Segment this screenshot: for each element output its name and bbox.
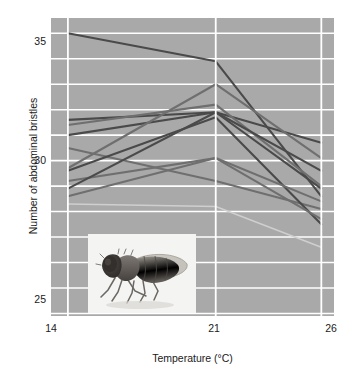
reaction-norm-line-3: [68, 105, 321, 187]
x-tick-21: 21: [194, 322, 234, 334]
x-tick-14: 14: [31, 322, 71, 334]
y-tick-35: 35: [12, 36, 46, 47]
y-tick-25: 25: [12, 294, 46, 305]
y-tick-30: 30: [12, 155, 46, 166]
reaction-norm-line-7: [68, 117, 321, 224]
fly-illustration: [88, 234, 196, 313]
series-lines: [68, 33, 321, 247]
x-axis-label: Temperature (°C): [51, 352, 334, 364]
reaction-norm-line-2: [68, 112, 321, 143]
reaction-norm-figure: Number of abdominal bristles 35 30 25: [0, 0, 343, 375]
drosophila-fly-inset: [88, 234, 196, 313]
x-tick-26: 26: [311, 322, 343, 334]
reaction-norm-line-10: [68, 158, 321, 219]
y-axis-ticks: 35 30 25: [8, 0, 46, 375]
